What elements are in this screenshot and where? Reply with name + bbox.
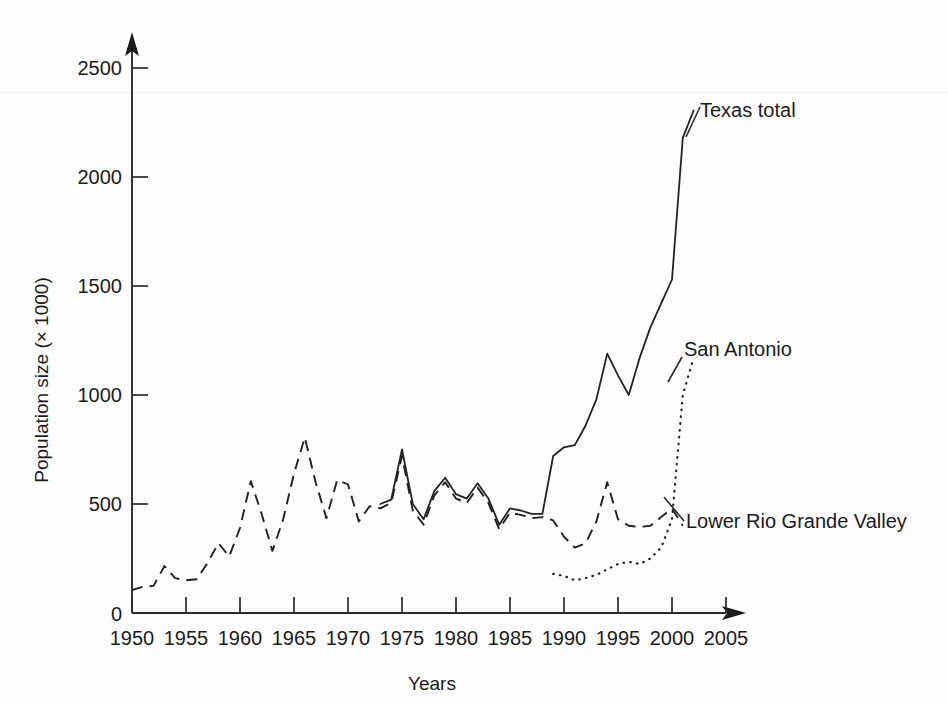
x-tick-label-2005: 2005 <box>704 627 749 649</box>
series-label-texas-total: Texas total <box>700 99 796 121</box>
series-label-san-antonio: San Antonio <box>684 338 792 360</box>
x-tick-label-1960: 1960 <box>218 627 263 649</box>
x-tick-label-1990: 1990 <box>542 627 587 649</box>
series-line-lower-rio-grande-valley <box>132 438 683 591</box>
x-tick-label-1995: 1995 <box>596 627 641 649</box>
leader-lower-rio-grande-valley <box>664 497 684 521</box>
figure-page: 2500 2000 1500 1000 500 0 Population siz… <box>0 0 948 703</box>
series-group <box>132 111 694 591</box>
y-tick-label-2000: 2000 <box>78 166 123 188</box>
x-axis: 1950 1955 1960 1965 1970 1975 1980 1985 … <box>110 597 749 694</box>
x-tick-label-1975: 1975 <box>380 627 425 649</box>
population-line-chart: 2500 2000 1500 1000 500 0 Population siz… <box>0 0 948 703</box>
y-tick-label-1500: 1500 <box>78 275 123 297</box>
x-tick-label-1950: 1950 <box>110 627 155 649</box>
y-tick-label-2500: 2500 <box>78 57 123 79</box>
y-axis-title: Population size (× 1000) <box>31 277 52 482</box>
y-axis: 2500 2000 1500 1000 500 0 Population siz… <box>31 32 148 625</box>
series-labels: Texas total San Antonio Lower Rio Grande… <box>684 99 907 532</box>
x-tick-label-1980: 1980 <box>434 627 479 649</box>
y-tick-label-1000: 1000 <box>78 384 123 406</box>
x-tick-label-1965: 1965 <box>272 627 317 649</box>
x-tick-label-2000: 2000 <box>650 627 695 649</box>
series-label-lower-rio-grande-valley: Lower Rio Grande Valley <box>686 510 907 532</box>
leader-san-antonio <box>668 357 682 382</box>
x-tick-label-1985: 1985 <box>488 627 533 649</box>
annotation-leaders <box>664 107 700 521</box>
series-line-texas-total <box>380 111 693 525</box>
x-tick-label-1970: 1970 <box>326 627 371 649</box>
y-tick-label-500: 500 <box>89 493 122 515</box>
x-tick-label-1955: 1955 <box>164 627 209 649</box>
x-axis-title: Years <box>408 673 456 694</box>
y-tick-label-0: 0 <box>111 603 122 625</box>
